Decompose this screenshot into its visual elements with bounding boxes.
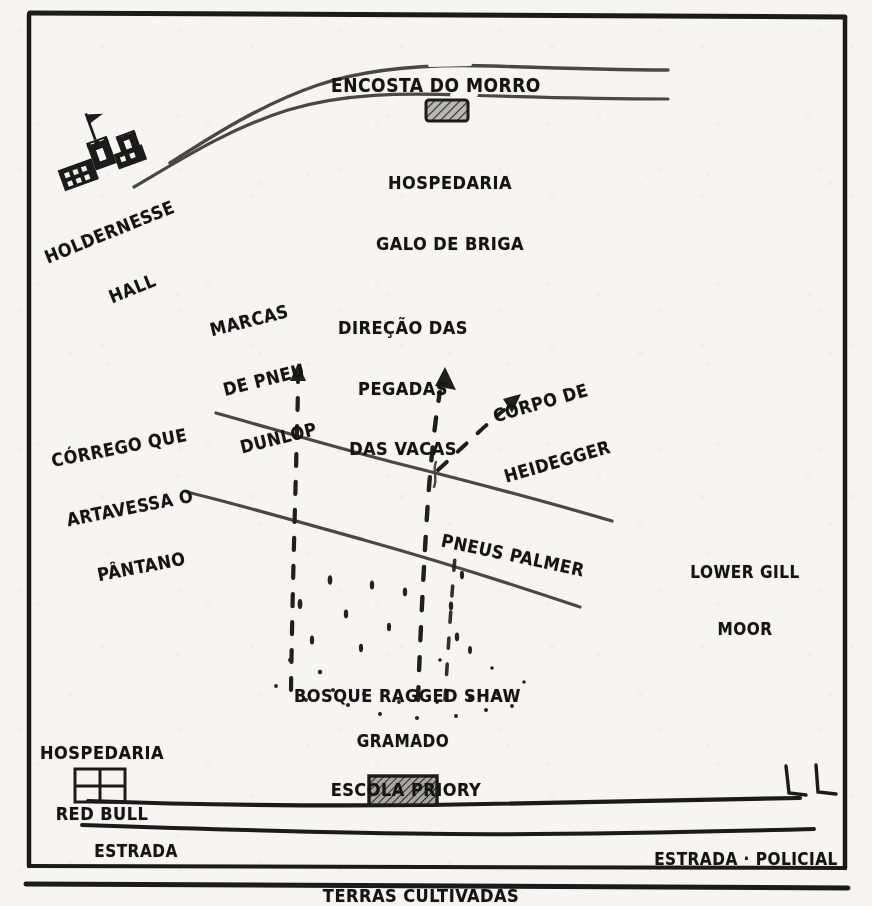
- label-line: MARCAS: [196, 299, 302, 344]
- label-line: PÂNTANO: [73, 544, 210, 590]
- label-galo-de-briga: HOSPEDARIA GALO DE BRIGA: [357, 133, 543, 294]
- label-farmland: TERRAS CULTIVADAS: [316, 846, 526, 906]
- hand-drawn-map: ENCOSTA DO MORRO HOLDERNESSE HALL HOSPED…: [0, 0, 872, 906]
- label-road-left: ESTRADA: [86, 804, 186, 899]
- label-line: DAS VACAS: [328, 439, 478, 459]
- label-line: DIREÇÃO DAS: [328, 318, 478, 338]
- label-priory-school: ESCOLA PRIORY: [330, 740, 482, 841]
- label-line: ESTRADA: [86, 842, 186, 861]
- label-line: CÓRREGO QUE: [50, 426, 187, 472]
- label-line: PNEUS PALMER: [439, 531, 580, 580]
- label-line: DE PNEU: [211, 358, 317, 403]
- label-line: ESCOLA PRIORY: [330, 780, 482, 800]
- label-hill-slope: ENCOSTA DO MORRO: [288, 32, 584, 138]
- label-line: HOSPEDARIA: [36, 743, 168, 763]
- label-road-right-police: ESTRADA · POLICIAL: [648, 812, 844, 906]
- label-lower-gill-moor: LOWER GILL MOOR: [682, 525, 808, 677]
- label-line: HOLDERNESSE: [27, 191, 192, 273]
- label-line: MOOR: [682, 620, 808, 639]
- label-line: ARTAVESSA O: [61, 485, 198, 531]
- label-line: PEGADAS: [328, 379, 478, 399]
- label-line: TERRAS CULTIVADAS: [316, 886, 526, 906]
- label-line: GALO DE BRIGA: [357, 234, 543, 254]
- label-line: ESTRADA · POLICIAL: [648, 850, 844, 869]
- label-line: DUNLOP: [226, 416, 332, 461]
- label-line: ENCOSTA DO MORRO: [288, 75, 584, 96]
- label-line: HOSPEDARIA: [357, 173, 543, 193]
- label-line: HEIDEGGER: [498, 436, 617, 488]
- label-line: LOWER GILL: [682, 563, 808, 582]
- label-line: CORPO DE: [481, 378, 600, 430]
- label-cow-tracks-direction: DIREÇÃO DAS PEGADAS DAS VACAS: [328, 278, 478, 500]
